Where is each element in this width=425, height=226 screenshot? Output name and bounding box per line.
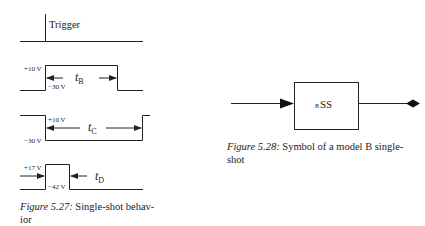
caption-label: Figure 5.28:	[227, 141, 280, 152]
figure-5-28-caption: Figure 5.28: Symbol of a model B single-…	[227, 140, 425, 166]
block-label: SS	[320, 98, 332, 110]
figure-5-27-caption: Figure 5.27: Single-shot behav- ior	[20, 200, 170, 226]
waveform-c-duration: tC	[88, 120, 97, 136]
waveform-c-high-label: +10 V	[48, 116, 66, 124]
caption-label: Figure 5.27:	[20, 201, 73, 212]
caption-line1: Symbol of a model B single-	[282, 141, 403, 152]
waveform-d-high-label: +17 V	[24, 164, 42, 172]
caption-line1: Single-shot behav-	[75, 201, 154, 212]
arrow-head-icon	[280, 99, 294, 109]
figure-canvas: Trigger +10 V −30 V tB +10 V −30 V tC +1…	[0, 0, 425, 226]
diamond-icon	[406, 100, 420, 108]
block-prefix: B	[315, 103, 319, 109]
caption-line2: ior	[20, 214, 32, 225]
waveform-c-low-label: −30 V	[24, 137, 42, 145]
single-shot-symbol: B SS	[231, 83, 420, 130]
waveform-b-high-label: +10 V	[24, 65, 42, 73]
waveform-d-low-label: −42 V	[48, 183, 66, 191]
caption-line2: shot	[227, 154, 245, 165]
trigger-waveform	[20, 14, 143, 42]
waveform-d-duration: tD	[95, 169, 104, 185]
waveform-b-low-label: −30 V	[48, 83, 66, 91]
waveform-b-duration: tB	[75, 70, 84, 86]
trigger-label: Trigger	[49, 19, 81, 30]
